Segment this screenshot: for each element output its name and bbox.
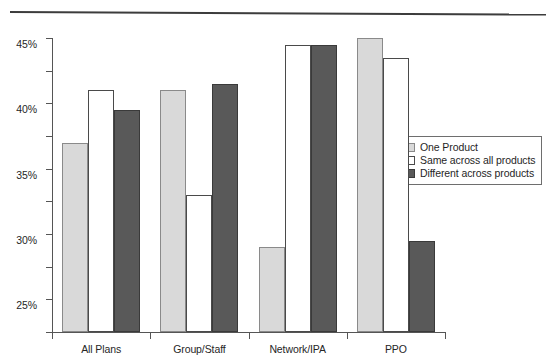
y-axis-tick: 40% [46, 71, 53, 72]
bar-all-plans-same-across-all-products [88, 90, 114, 332]
x-axis-tick [249, 332, 250, 339]
chart-legend: One ProductSame across all productsDiffe… [400, 136, 542, 185]
bar-network-ipa-different-across-products [311, 45, 337, 332]
legend-label: Same across all products [420, 155, 535, 166]
legend-item-one-product: One Product [406, 141, 535, 154]
y-axis-tick: 5% [46, 299, 53, 300]
x-axis-tick [347, 332, 348, 339]
y-axis-tick-label: 30% [16, 235, 37, 246]
legend-label: One Product [420, 142, 478, 153]
bar-chart-figure: 0%5%10%15%20%25%30%35%40%45% All PlansGr… [0, 0, 554, 362]
bar-all-plans-different-across-products [114, 110, 140, 332]
y-axis-tick: 20% [46, 201, 53, 202]
y-axis-tick: 10% [46, 267, 53, 268]
y-axis-tick: 35% [46, 103, 53, 104]
y-axis-tick-label: 25% [16, 300, 37, 311]
y-axis-tick: 15% [46, 234, 53, 235]
bar-all-plans-one-product [62, 143, 88, 332]
x-axis-label-group-staff: Group/Staff [173, 344, 225, 355]
legend-label: Different across products [420, 168, 534, 179]
bar-group-staff-same-across-all-products [186, 195, 212, 332]
bar-group-staff-one-product [160, 90, 186, 332]
legend-item-different-across-products: Different across products [406, 167, 535, 180]
bar-ppo-different-across-products [409, 241, 435, 332]
x-axis-label-network-ipa: Network/IPA [269, 344, 325, 355]
y-axis-tick-label: 35% [16, 169, 37, 180]
y-axis-line [52, 38, 53, 332]
legend-item-same-across-all-products: Same across all products [406, 154, 535, 167]
x-axis-label-all-plans: All Plans [81, 344, 121, 355]
bar-ppo-same-across-all-products [383, 58, 409, 332]
plot-area: 0%5%10%15%20%25%30%35%40%45% All PlansGr… [52, 32, 445, 332]
y-axis-tick: 30% [46, 136, 53, 137]
y-axis-tick-label: 45% [16, 39, 37, 50]
bar-network-ipa-same-across-all-products [285, 45, 311, 332]
x-axis-tick [150, 332, 151, 339]
x-axis-tick [52, 332, 53, 339]
y-axis-tick: 45% [46, 38, 53, 39]
bar-network-ipa-one-product [259, 247, 285, 332]
x-axis-tick [445, 332, 446, 339]
bar-ppo-one-product [357, 38, 383, 332]
y-axis-tick: 25% [46, 169, 53, 170]
x-axis-label-ppo: PPO [385, 344, 407, 355]
y-axis-tick-label: 40% [16, 104, 37, 115]
page-divider-rule [10, 11, 546, 16]
bar-group-staff-different-across-products [212, 84, 238, 332]
